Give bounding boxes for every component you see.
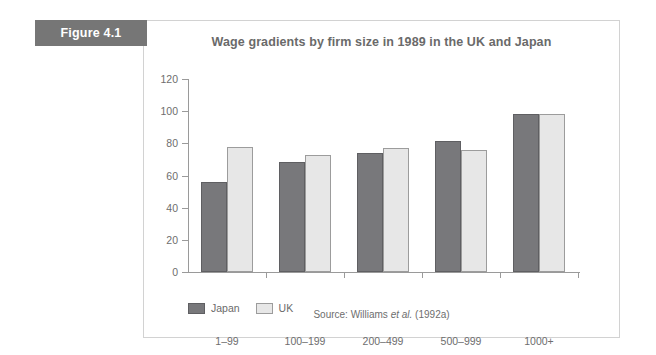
figure-label: Figure 4.1	[35, 20, 147, 46]
y-axis-tick-label: 100	[160, 105, 178, 117]
x-axis-line	[188, 272, 580, 273]
bar-japan	[513, 114, 539, 272]
y-axis-tick: 120	[182, 79, 188, 80]
source-et-al: et al.	[391, 309, 413, 320]
bar-group	[435, 79, 487, 272]
bar-group	[513, 79, 565, 272]
x-axis-tick	[500, 273, 501, 278]
y-axis-tick-label: 120	[160, 73, 178, 85]
plot-area: 0204060801001201–99100–199200–499500–999…	[188, 79, 578, 272]
bar-uk	[305, 155, 331, 272]
bar-uk	[227, 147, 253, 272]
bar-japan	[435, 141, 461, 272]
x-axis-tick	[344, 273, 345, 278]
x-axis-category-label: 200–499	[363, 335, 404, 347]
x-axis-category-label: 1000+	[524, 335, 554, 347]
bar-uk	[539, 114, 565, 272]
y-axis-tick: 0	[182, 272, 188, 273]
bar-group	[201, 79, 253, 272]
bar-uk	[461, 150, 487, 272]
x-axis-category-label: 1–99	[215, 335, 238, 347]
y-axis-tick-label: 20	[166, 234, 178, 246]
bar-japan	[357, 153, 383, 272]
y-axis-tick: 80	[182, 143, 188, 144]
y-axis-tick-label: 60	[166, 170, 178, 182]
bar-uk	[383, 148, 409, 272]
bar-group	[357, 79, 409, 272]
y-axis-tick-label: 40	[166, 202, 178, 214]
y-axis-tick: 20	[182, 240, 188, 241]
bar-group	[279, 79, 331, 272]
y-axis-tick-label: 0	[172, 266, 178, 278]
y-axis-tick-label: 80	[166, 137, 178, 149]
x-axis-tick	[578, 273, 579, 278]
x-axis-tick	[422, 273, 423, 278]
x-axis-category-label: 500–999	[441, 335, 482, 347]
chart-title: Wage gradients by firm size in 1989 in t…	[144, 35, 619, 49]
y-axis-tick: 40	[182, 208, 188, 209]
source-note: Source: Williams et al. (1992a)	[144, 309, 619, 320]
x-axis-category-label: 100–199	[285, 335, 326, 347]
y-axis-tick: 100	[182, 111, 188, 112]
y-axis-tick: 60	[182, 176, 188, 177]
bar-japan	[201, 182, 227, 272]
x-axis-tick	[266, 273, 267, 278]
bar-japan	[279, 162, 305, 272]
chart-panel: Wage gradients by firm size in 1989 in t…	[143, 20, 620, 338]
